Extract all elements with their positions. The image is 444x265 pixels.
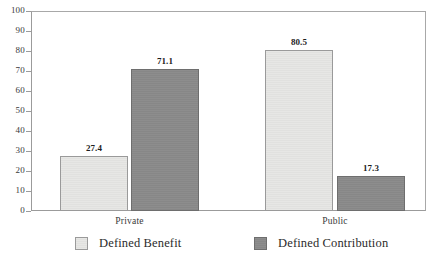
x-axis-category-label: Public: [265, 215, 405, 227]
y-axis-tick-label: 40: [16, 125, 25, 136]
y-axis-tick-label: 80: [16, 45, 25, 56]
bar-chart: 1009080706050403020100 27.471.180.517.3 …: [0, 0, 444, 265]
legend-label: Defined Benefit: [99, 236, 181, 250]
chart-legend: Defined BenefitDefined Contribution: [0, 236, 444, 260]
bar[interactable]: 80.5: [265, 50, 333, 211]
legend-swatch-icon: [75, 237, 88, 250]
y-axis-tick-mark: [26, 211, 31, 212]
y-axis-tick-label: 50: [16, 105, 25, 116]
y-axis-tick-label: 10: [16, 185, 25, 196]
y-axis: 1009080706050403020100: [0, 0, 31, 265]
y-axis-tick-label: 20: [16, 165, 25, 176]
legend-item[interactable]: Defined Contribution: [254, 236, 388, 250]
x-axis-category-label: Private: [60, 215, 199, 227]
bar-value-label: 17.3: [363, 163, 379, 174]
y-axis-tick-label: 0: [20, 205, 25, 216]
bar[interactable]: 27.4: [60, 156, 128, 211]
legend-label: Defined Contribution: [278, 236, 388, 250]
bar[interactable]: 71.1: [131, 69, 199, 211]
bar-value-label: 80.5: [291, 37, 307, 48]
y-axis-tick-label: 30: [16, 145, 25, 156]
y-axis-tick-label: 60: [16, 85, 25, 96]
legend-swatch-icon: [254, 237, 267, 250]
bars-layer: 27.471.180.517.3: [31, 11, 426, 211]
cropped-title-remnant: [0, 0, 444, 8]
y-axis-tick-label: 70: [16, 65, 25, 76]
bar-value-label: 27.4: [86, 143, 102, 154]
bar[interactable]: 17.3: [337, 176, 405, 211]
y-axis-tick-label: 100: [11, 5, 25, 16]
y-axis-tick-label: 90: [16, 25, 25, 36]
legend-item[interactable]: Defined Benefit: [75, 236, 181, 250]
bar-value-label: 71.1: [157, 56, 173, 67]
